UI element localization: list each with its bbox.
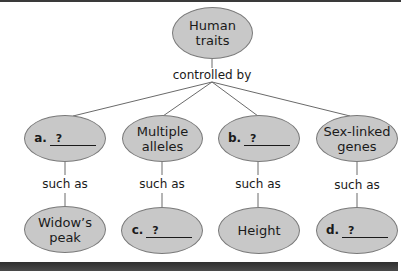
- node-label-line1: Sex-linked: [323, 124, 390, 139]
- node-label-line2: traits: [189, 33, 236, 48]
- node-label-line1: Human: [189, 18, 236, 33]
- link-label-such-as: such as: [139, 177, 184, 191]
- node-blank-a: a. ?: [24, 115, 106, 162]
- link-label-such-as: such as: [334, 178, 379, 192]
- blank-letter: d.: [326, 223, 339, 238]
- link-label-controlled-by: controlled by: [173, 68, 251, 82]
- node-label-line1: Multiple: [137, 124, 189, 139]
- node-label-line2: genes: [323, 139, 390, 154]
- blank-answer: ?: [50, 133, 96, 146]
- blank-answer: ?: [146, 225, 192, 238]
- blank-answer: ?: [342, 225, 388, 238]
- blank-letter: c.: [132, 223, 144, 238]
- node-blank-b: b. ?: [218, 115, 300, 162]
- node-label-line1: Height: [238, 223, 281, 238]
- node-label-line2: alleles: [137, 139, 189, 154]
- node-label-line2: peak: [38, 230, 92, 245]
- node-sex-linked-genes: Sex-linked genes: [316, 115, 398, 162]
- node-blank-c: c. ?: [121, 207, 203, 254]
- link-label-such-as: such as: [235, 177, 280, 191]
- concept-map: Human traits controlled by a. ? Multiple…: [0, 0, 419, 271]
- blank-letter: b.: [228, 131, 241, 146]
- blank-letter: a.: [34, 131, 47, 146]
- node-human-traits: Human traits: [172, 7, 253, 59]
- node-widows-peak: Widow’s peak: [24, 206, 106, 253]
- node-height: Height: [218, 207, 300, 254]
- node-blank-d: d. ?: [316, 207, 398, 254]
- blank-answer: ?: [244, 133, 290, 146]
- link-label-such-as: such as: [42, 177, 87, 191]
- node-label-line1: Widow’s: [38, 215, 92, 230]
- node-multiple-alleles: Multiple alleles: [122, 115, 203, 162]
- bottom-bar: [0, 262, 398, 271]
